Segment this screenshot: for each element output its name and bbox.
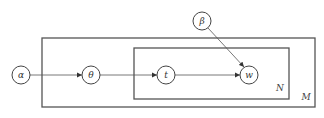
node-theta: θ <box>82 66 100 84</box>
node-w-label: w <box>245 70 253 80</box>
node-theta-label: θ <box>88 70 94 80</box>
plate-inner-label: N <box>275 83 285 93</box>
node-t: t <box>157 66 175 84</box>
node-beta: β <box>193 12 211 30</box>
node-w: w <box>240 66 258 84</box>
node-alpha: α <box>12 66 30 84</box>
node-t-label: t <box>164 70 168 80</box>
node-beta-label: β <box>198 16 204 26</box>
plate-outer-label: M <box>300 92 311 102</box>
node-alpha-label: α <box>18 70 24 80</box>
plate-diagram: α θ t w β N M <box>0 0 324 118</box>
